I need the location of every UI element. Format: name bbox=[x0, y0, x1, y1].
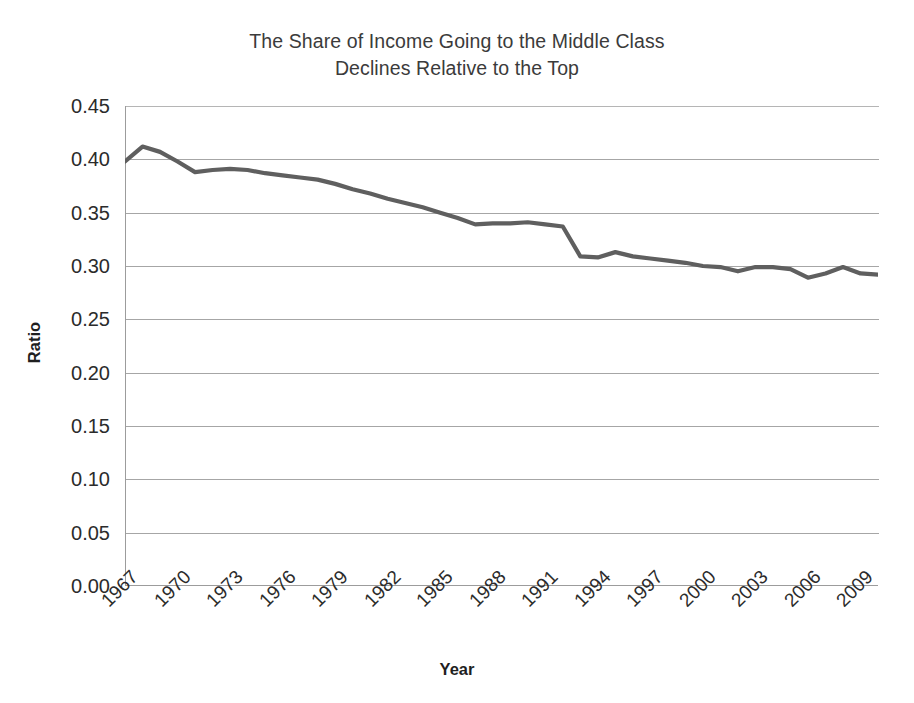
x-axis-tick-label: 1982 bbox=[360, 566, 405, 611]
x-axis-tick-label: 1970 bbox=[150, 566, 195, 611]
x-axis-tick-label: 2006 bbox=[780, 566, 825, 611]
x-axis-tick-label: 1997 bbox=[622, 566, 667, 611]
x-axis-tick-label: 1973 bbox=[202, 566, 247, 611]
chart-container: The Share of Income Going to the Middle … bbox=[0, 0, 914, 703]
x-axis-tick-labels: 1967197019731976197919821985198819911994… bbox=[0, 0, 914, 703]
x-axis-tick-label: 2003 bbox=[727, 566, 772, 611]
x-axis-title: Year bbox=[0, 660, 914, 679]
x-axis-tick-label: 2009 bbox=[832, 566, 877, 611]
x-axis-tick-label: 1991 bbox=[517, 566, 562, 611]
x-axis-tick-label: 1967 bbox=[97, 566, 142, 611]
x-axis-tick-label: 1979 bbox=[307, 566, 352, 611]
x-axis-tick-label: 1994 bbox=[570, 566, 615, 611]
x-axis-tick-label: 1988 bbox=[465, 566, 510, 611]
x-axis-tick-label: 2000 bbox=[675, 566, 720, 611]
x-axis-tick-label: 1976 bbox=[255, 566, 300, 611]
x-axis-tick-label: 1985 bbox=[412, 566, 457, 611]
